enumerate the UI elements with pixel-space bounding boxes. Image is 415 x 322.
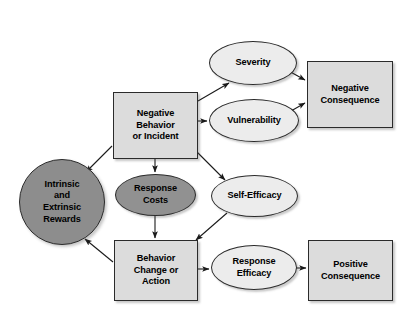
node-intrinsic-extrinsic-rewards[interactable]: Intrinsic and Extrinsic Rewards	[19, 159, 105, 245]
node-label-vulnerability: Vulnerability	[224, 115, 284, 127]
node-behavior-change[interactable]: Behavior Change or Action	[114, 240, 198, 301]
node-label-self-efficacy: Self-Efficacy	[225, 190, 285, 202]
diagram-canvas: Negative Behavior or Incident Severity V…	[0, 0, 415, 322]
node-label-behavior-change: Behavior Change or Action	[131, 253, 182, 288]
node-severity[interactable]: Severity	[209, 41, 297, 85]
node-self-efficacy[interactable]: Self-Efficacy	[211, 175, 298, 217]
node-label-intrinsic-extrinsic-rewards: Intrinsic and Extrinsic Rewards	[40, 179, 84, 225]
node-label-response-costs: Response Costs	[131, 183, 180, 206]
node-negative-consequence[interactable]: Negative Consequence	[307, 61, 393, 128]
edge-nb-to-rewards	[86, 146, 112, 172]
node-label-severity: Severity	[233, 57, 274, 69]
edge-nb-to-severity	[198, 83, 229, 101]
node-response-costs[interactable]: Response Costs	[115, 174, 196, 216]
edge-nb-to-self-efficacy	[197, 152, 225, 180]
node-vulnerability[interactable]: Vulnerability	[209, 99, 299, 142]
node-label-response-efficacy: Response Efficacy	[229, 256, 278, 279]
node-label-negative-behavior: Negative Behavior or Incident	[130, 108, 182, 143]
node-label-positive-consequence: Positive Consequence	[318, 259, 383, 282]
node-response-efficacy[interactable]: Response Efficacy	[211, 245, 297, 290]
node-negative-behavior[interactable]: Negative Behavior or Incident	[113, 92, 198, 159]
node-label-negative-consequence: Negative Consequence	[317, 83, 382, 106]
edge-self-efficacy-to-behavior-change	[196, 213, 227, 240]
node-positive-consequence[interactable]: Positive Consequence	[308, 240, 393, 301]
edge-behavior-change-to-rewards	[85, 239, 113, 262]
